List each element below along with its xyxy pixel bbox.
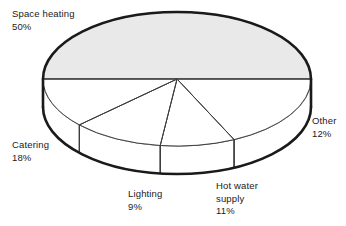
pie-label-line: Lighting [128, 188, 162, 199]
pie-chart-svg: Space heating50%Catering18%Lighting9%Hot… [0, 0, 346, 226]
pie-label-catering: Catering18% [12, 139, 49, 163]
pie-label-line: supply [216, 193, 244, 204]
pie-label-line: Space heating [12, 8, 75, 19]
pie-label-lighting: Lighting9% [128, 188, 162, 212]
pie-chart-figure: Space heating50%Catering18%Lighting9%Hot… [0, 0, 346, 226]
pie-label-line: 18% [12, 152, 32, 163]
pie-label-line: Other [312, 115, 337, 126]
pie-label-space-heating: Space heating50% [12, 8, 75, 32]
pie-label-other: Other12% [312, 115, 337, 139]
pie-label-line: Hot water [216, 180, 258, 191]
pie-label-line: Catering [12, 139, 49, 150]
pie-label-line: 9% [128, 201, 142, 212]
pie-label-line: 11% [216, 205, 235, 216]
pie-label-line: 50% [12, 21, 32, 32]
pie-label-line: 12% [312, 128, 332, 139]
pie-slice-space-heating [43, 12, 311, 79]
pie-label-hot-water-supply: Hot watersupply11% [216, 180, 258, 216]
